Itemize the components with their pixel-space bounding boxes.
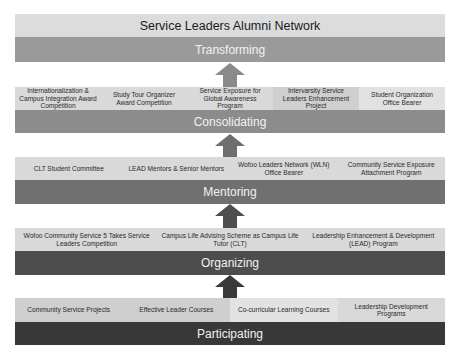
program-item: Effective Leader Courses (123, 298, 231, 322)
program-item: Co-curricular Learning Courses (230, 298, 338, 322)
layer-mentoring: CLT Student Committee LEAD Mentors & Sen… (15, 157, 445, 204)
up-arrow-icon (215, 275, 245, 299)
program-item: Service Exposure for Global Awareness Pr… (187, 87, 273, 110)
up-arrow-icon (215, 134, 245, 158)
stage-consolidating: Consolidating (15, 110, 445, 133)
stage-organizing: Organizing (15, 251, 445, 275)
stage-transforming: Transforming (15, 37, 445, 62)
program-item: Internationalization & Campus Integratio… (15, 87, 101, 110)
layer-consolidating: Internationalization & Campus Integratio… (15, 87, 445, 133)
program-item: Community Service Projects (15, 298, 123, 322)
program-item: Campus Life Advising Scheme as Campus Li… (158, 228, 301, 251)
up-arrow-icon (215, 204, 245, 228)
organizing-items: Wofoo Community Service 5 Takes Service … (15, 228, 445, 251)
participating-items: Community Service Projects Effective Lea… (15, 298, 445, 322)
program-item: Intervarsity Service Leaders Enhancement… (273, 87, 359, 110)
consolidating-items: Internationalization & Campus Integratio… (15, 87, 445, 110)
program-item: Leadership Enhancement & Development (LE… (302, 228, 445, 251)
stage-mentoring: Mentoring (15, 180, 445, 204)
layer-participating: Community Service Projects Effective Lea… (15, 298, 445, 345)
up-arrow-icon (215, 63, 245, 87)
mentoring-items: CLT Student Committee LEAD Mentors & Sen… (15, 157, 445, 180)
alumni-network-title: Service Leaders Alumni Network (15, 14, 445, 37)
layer-transforming: Service Leaders Alumni Network Transform… (15, 14, 445, 62)
program-item: LEAD Mentors & Senior Mentors (123, 157, 231, 180)
program-item: Community Service Exposure Attachment Pr… (338, 157, 446, 180)
program-item: CLT Student Committee (15, 157, 123, 180)
program-item: Wofoo Leaders Network (WLN) Office Beare… (230, 157, 338, 180)
program-item: Leadership Development Programs (338, 298, 446, 322)
program-item: Wofoo Community Service 5 Takes Service … (15, 228, 158, 251)
program-item: Study Tour Organizer Award Competition (101, 87, 187, 110)
layer-organizing: Wofoo Community Service 5 Takes Service … (15, 228, 445, 275)
program-item: Student Organization Office Bearer (359, 87, 445, 110)
stage-participating: Participating (15, 322, 445, 345)
